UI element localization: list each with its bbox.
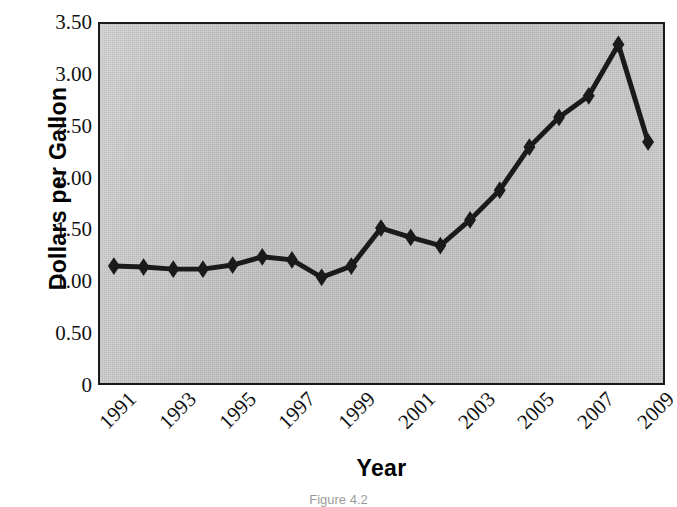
figure-caption: Figure 4.2 <box>0 492 677 507</box>
y-tick-label: 3.00 <box>32 63 92 84</box>
x-tick-label: 1995 <box>214 387 261 434</box>
y-tick-label: 1.00 <box>32 271 92 292</box>
data-point-marker <box>286 251 298 269</box>
x-axis-tick-labels: 1991199319951997199920012003200520072009 <box>98 385 665 455</box>
data-point-marker <box>256 248 268 266</box>
data-point-marker <box>197 260 209 278</box>
y-tick-label: 3.50 <box>32 12 92 33</box>
data-point-marker <box>316 268 328 286</box>
y-tick-label: 1.50 <box>32 219 92 240</box>
x-tick-label: 2005 <box>513 387 560 434</box>
y-tick-label: 2.00 <box>32 167 92 188</box>
y-axis-tick-labels: 3.503.002.502.001.501.000.500 <box>28 0 92 507</box>
x-tick-label: 2009 <box>632 387 677 434</box>
x-tick-label: 1999 <box>333 387 380 434</box>
plot-area <box>98 22 665 385</box>
data-point-marker <box>167 260 179 278</box>
chart-figure: Dollars per Gallon 3.503.002.502.001.501… <box>0 0 677 507</box>
series-markers <box>108 36 654 287</box>
data-point-marker <box>108 257 120 275</box>
x-axis-title: Year <box>98 455 665 482</box>
y-tick-label: 0 <box>32 375 92 396</box>
series-polyline <box>114 45 648 278</box>
y-tick-label: 0.50 <box>32 323 92 344</box>
x-tick-label: 1991 <box>94 387 141 434</box>
data-point-marker <box>227 256 239 274</box>
x-tick-label: 2007 <box>573 387 620 434</box>
x-tick-label: 1993 <box>154 387 201 434</box>
y-tick-label: 2.50 <box>32 115 92 136</box>
price-line-series <box>100 24 663 383</box>
x-tick-label: 2001 <box>393 387 440 434</box>
data-point-marker <box>405 228 417 246</box>
x-tick-label: 2003 <box>453 387 500 434</box>
data-point-marker <box>138 258 150 276</box>
x-tick-label: 1997 <box>274 387 321 434</box>
